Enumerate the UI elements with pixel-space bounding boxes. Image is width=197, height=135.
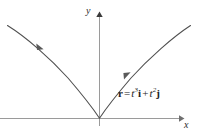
equation-plus: + (141, 87, 149, 99)
y-axis-arrowhead (96, 12, 102, 18)
equation-label: r=t3i+t2j (118, 88, 160, 100)
figure-canvas (0, 0, 197, 135)
direction-arrow-left-branch (36, 44, 43, 50)
direction-arrow-right-branch (123, 72, 130, 79)
x-axis-label: x (184, 120, 188, 130)
y-axis-label: y (86, 6, 90, 16)
equation-term2-unit-vector-j: j (156, 87, 160, 99)
vector-curve-figure: y x r=t3i+t2j (0, 0, 197, 135)
